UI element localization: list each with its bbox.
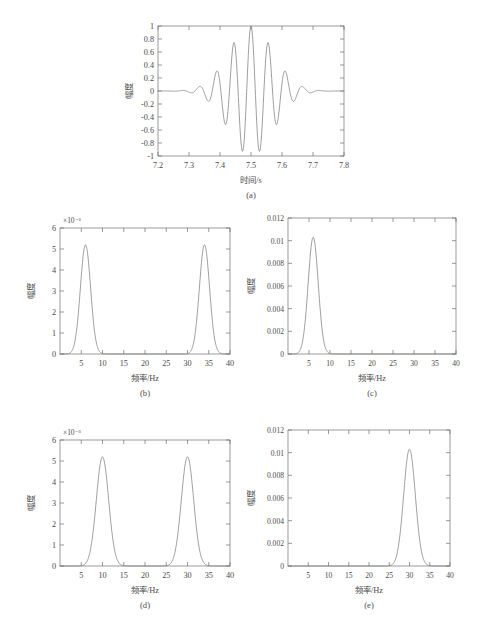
panel-caption: (d) bbox=[140, 600, 150, 610]
x-tick-label: 7.3 bbox=[184, 161, 194, 170]
y-tick-label: 0.8 bbox=[144, 35, 154, 44]
x-axis-title: 频率/Hz bbox=[131, 585, 159, 595]
y-tick-label: 0 bbox=[280, 350, 284, 359]
x-tick-label: 5 bbox=[79, 359, 83, 368]
panel-d: 5101520253035400123456×10⁻³频率/Hz幅度(d) bbox=[22, 418, 238, 618]
y-tick-label: 0.008 bbox=[267, 259, 284, 268]
y-tick-label: 0.2 bbox=[144, 74, 154, 83]
x-tick-label: 30 bbox=[183, 359, 191, 368]
x-tick-label: 15 bbox=[120, 571, 128, 580]
x-tick-label: 20 bbox=[368, 359, 376, 368]
y-axis-multiplier: ×10⁻³ bbox=[63, 216, 82, 225]
plot-frame bbox=[288, 430, 450, 566]
x-tick-label: 20 bbox=[365, 571, 373, 580]
y-tick-label: 0.006 bbox=[267, 282, 284, 291]
y-axis-title: 幅度 bbox=[124, 82, 134, 99]
y-tick-label: 3 bbox=[52, 287, 56, 296]
x-tick-label: 30 bbox=[406, 571, 414, 580]
x-tick-label: 10 bbox=[326, 359, 334, 368]
y-tick-label: 0.008 bbox=[267, 471, 284, 480]
panel-caption: (e) bbox=[364, 600, 374, 610]
panel-e: 51015202530354000.0020.0040.0060.0080.01… bbox=[240, 418, 462, 618]
y-tick-label: -1 bbox=[147, 152, 154, 161]
data-curve bbox=[158, 26, 344, 151]
y-tick-label: 0.006 bbox=[267, 494, 284, 503]
y-axis-multiplier: ×10⁻³ bbox=[63, 428, 82, 437]
x-tick-label: 25 bbox=[162, 571, 170, 580]
y-axis-title: 幅度 bbox=[246, 277, 256, 294]
y-tick-label: 1 bbox=[52, 541, 56, 550]
x-tick-label: 15 bbox=[347, 359, 355, 368]
x-axis-title: 频率/Hz bbox=[358, 373, 386, 383]
x-tick-label: 10 bbox=[98, 359, 106, 368]
panel-c: 51015202530354000.0020.0040.0060.0080.01… bbox=[240, 206, 462, 406]
y-tick-label: 3 bbox=[52, 499, 56, 508]
y-tick-label: -0.2 bbox=[141, 100, 154, 109]
x-tick-label: 7.2 bbox=[153, 161, 163, 170]
y-tick-label: 4 bbox=[52, 266, 56, 275]
x-tick-label: 35 bbox=[205, 571, 213, 580]
y-tick-label: 4 bbox=[52, 478, 56, 487]
y-tick-label: 5 bbox=[52, 457, 56, 466]
y-tick-label: 1 bbox=[52, 329, 56, 338]
figure-container: 7.27.37.47.57.67.77.810.80.60.40.20-0.2-… bbox=[0, 0, 483, 625]
y-axis-title: 幅度 bbox=[246, 489, 256, 506]
y-tick-label: 2 bbox=[52, 520, 56, 529]
x-tick-label: 15 bbox=[120, 359, 128, 368]
x-tick-label: 7.7 bbox=[308, 161, 318, 170]
x-tick-label: 30 bbox=[410, 359, 418, 368]
y-tick-label: 5 bbox=[52, 245, 56, 254]
x-tick-label: 20 bbox=[141, 359, 149, 368]
y-tick-label: 0.4 bbox=[144, 61, 154, 70]
y-axis-title: 幅度 bbox=[26, 282, 36, 299]
panel-caption: (a) bbox=[246, 190, 256, 200]
plot-d: 5101520253035400123456×10⁻³频率/Hz幅度(d) bbox=[22, 418, 238, 618]
panel-b: 5101520253035400123456×10⁻³频率/Hz幅度(b) bbox=[22, 206, 238, 406]
y-tick-label: 0.012 bbox=[267, 214, 284, 223]
plot-frame bbox=[60, 228, 230, 354]
x-tick-label: 40 bbox=[452, 359, 460, 368]
y-tick-label: 0.01 bbox=[271, 449, 284, 458]
y-axis-title: 幅度 bbox=[26, 494, 36, 511]
y-tick-label: 2 bbox=[52, 308, 56, 317]
x-tick-label: 15 bbox=[345, 571, 353, 580]
y-tick-label: 0 bbox=[280, 562, 284, 571]
y-tick-label: 0 bbox=[52, 562, 56, 571]
y-tick-label: 0.002 bbox=[267, 539, 284, 548]
y-tick-label: -0.6 bbox=[141, 126, 154, 135]
y-tick-label: 0 bbox=[52, 350, 56, 359]
y-tick-label: 6 bbox=[52, 436, 56, 445]
x-tick-label: 30 bbox=[183, 571, 191, 580]
x-tick-label: 35 bbox=[431, 359, 439, 368]
x-tick-label: 25 bbox=[162, 359, 170, 368]
plot-frame bbox=[60, 440, 230, 566]
panel-a: 7.27.37.47.57.67.77.810.80.60.40.20-0.2-… bbox=[118, 14, 350, 202]
x-tick-label: 40 bbox=[226, 359, 234, 368]
plot-a: 7.27.37.47.57.67.77.810.80.60.40.20-0.2-… bbox=[118, 14, 350, 202]
x-tick-label: 40 bbox=[226, 571, 234, 580]
x-tick-label: 7.4 bbox=[215, 161, 225, 170]
x-tick-label: 20 bbox=[141, 571, 149, 580]
x-tick-label: 35 bbox=[205, 359, 213, 368]
y-tick-label: 0 bbox=[150, 87, 154, 96]
x-axis-title: 频率/Hz bbox=[355, 585, 383, 595]
y-tick-label: 0.01 bbox=[271, 237, 284, 246]
plot-b: 5101520253035400123456×10⁻³频率/Hz幅度(b) bbox=[22, 206, 238, 406]
y-tick-label: -0.8 bbox=[141, 139, 154, 148]
x-tick-label: 7.8 bbox=[339, 161, 349, 170]
y-tick-label: 0.004 bbox=[267, 305, 284, 314]
y-tick-label: 0.004 bbox=[267, 517, 284, 526]
x-tick-label: 10 bbox=[98, 571, 106, 580]
data-curve bbox=[60, 245, 230, 354]
x-tick-label: 35 bbox=[426, 571, 434, 580]
plot-frame bbox=[288, 218, 456, 354]
x-tick-label: 40 bbox=[446, 571, 454, 580]
y-tick-label: -0.4 bbox=[141, 113, 154, 122]
y-tick-label: 6 bbox=[52, 224, 56, 233]
x-tick-label: 5 bbox=[79, 571, 83, 580]
x-axis-title: 频率/Hz bbox=[131, 373, 159, 383]
data-curve bbox=[288, 237, 456, 354]
y-tick-label: 0.6 bbox=[144, 48, 154, 57]
y-tick-label: 0.012 bbox=[267, 426, 284, 435]
y-tick-label: 0.002 bbox=[267, 327, 284, 336]
